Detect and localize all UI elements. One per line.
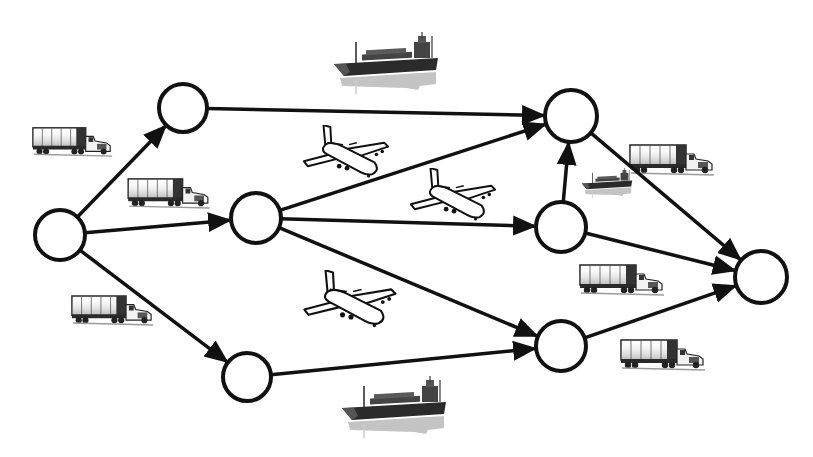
node-D xyxy=(545,90,597,142)
node-H xyxy=(223,353,271,401)
plane-icon xyxy=(304,270,395,327)
plane-icon xyxy=(304,125,388,178)
node-F xyxy=(536,321,586,371)
node-G xyxy=(735,251,787,303)
edge-C-E xyxy=(281,219,535,226)
plane-icon xyxy=(411,168,495,221)
transport-icons xyxy=(33,32,714,438)
edge-C-F xyxy=(279,228,537,336)
truck-icon xyxy=(580,265,664,295)
truck-icon xyxy=(621,340,705,370)
ship-icon xyxy=(582,168,632,198)
truck-icon xyxy=(630,145,714,175)
network-diagram xyxy=(0,0,813,457)
edge-B-D xyxy=(207,108,544,115)
truck-icon xyxy=(128,179,210,208)
truck-icon xyxy=(33,128,112,156)
edge-C-D xyxy=(280,124,546,210)
ship-icon xyxy=(334,32,438,94)
node-B xyxy=(159,84,207,132)
node-A xyxy=(35,210,85,260)
truck-icon xyxy=(72,296,153,325)
node-C xyxy=(231,193,281,243)
ship-icon xyxy=(342,376,446,438)
node-E xyxy=(536,202,586,252)
edge-H-F xyxy=(271,349,535,375)
edge-A-C xyxy=(85,220,230,233)
edge-E-D xyxy=(563,143,568,202)
